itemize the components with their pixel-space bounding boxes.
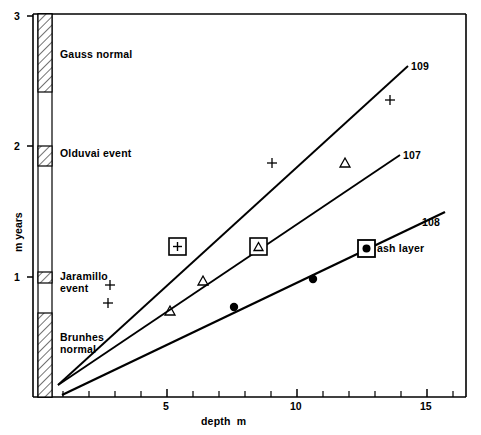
y-axis-title: m years — [12, 212, 24, 252]
polarity-band-olduvai-event — [38, 146, 52, 166]
x-tick-label-10: 10 — [290, 400, 302, 412]
x-axis-title: depth m — [201, 415, 246, 427]
x-axis-ticks — [63, 389, 453, 397]
polarity-column — [38, 14, 52, 397]
y-tick-label-2: 2 — [14, 140, 20, 152]
polarity-band-brunhes-normal — [38, 313, 52, 397]
series-label-108: 108 — [422, 216, 440, 228]
polarity-label-jaramillo-event: Jaramillo event — [60, 270, 108, 294]
polarity-label-olduvai-event: Olduvai event — [60, 147, 131, 159]
series-107 — [58, 155, 400, 385]
polarity-band-jaramillo-event — [38, 272, 52, 283]
ash-layer-annotation: ash layer — [377, 242, 424, 254]
y-axis-ticks — [27, 16, 33, 277]
figure-magnetostratigraphy: 3 2 1 5 10 15 depth m m years Gauss norm… — [0, 0, 481, 435]
x-tick-label-5: 5 — [163, 400, 169, 412]
polarity-label-gauss-normal: Gauss normal — [60, 48, 132, 60]
series-label-107: 107 — [403, 149, 421, 161]
y-tick-label-1: 1 — [14, 271, 20, 283]
polarity-band-gauss-normal — [38, 14, 52, 92]
marker-plus — [103, 95, 395, 308]
series-109 — [58, 66, 408, 385]
series-label-109: 109 — [411, 60, 429, 72]
polarity-label-brunhes-normal: Brunhes normal — [60, 331, 104, 355]
ash-layer-marker-109 — [169, 238, 186, 255]
ash-layer-marker-108 — [358, 240, 375, 257]
x-tick-label-15: 15 — [420, 400, 432, 412]
plot-canvas — [0, 0, 481, 435]
marker-triangle — [165, 158, 350, 315]
ash-layer-marker-107 — [250, 238, 267, 255]
y-tick-label-3: 3 — [14, 10, 20, 22]
